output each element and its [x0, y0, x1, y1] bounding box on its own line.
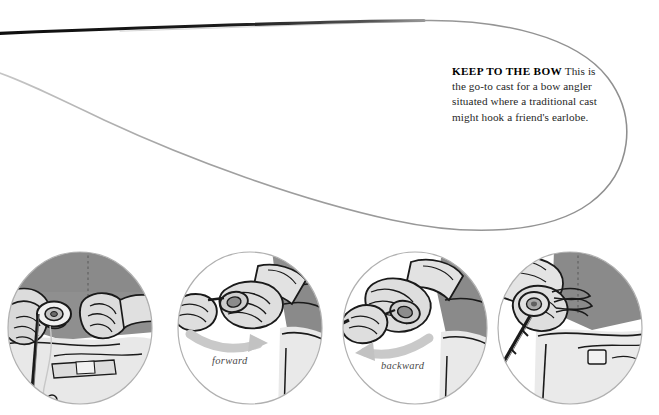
rod-tip-line: [0, 21, 424, 34]
panel-label-backward: backward: [381, 360, 424, 371]
instruction-panel-strip: forward: [0, 248, 659, 415]
caption-lead: KEEP TO THE BOW: [452, 65, 562, 77]
page-root: KEEP TO THE BOW This is the go-to cast f…: [0, 0, 659, 415]
fly-line-loop: [0, 20, 627, 230]
panel-release: [492, 248, 656, 415]
caption-block: KEEP TO THE BOW This is the go-to cast f…: [452, 64, 604, 125]
panel-backward-stroke: backward: [337, 248, 501, 415]
panel-label-forward: forward: [212, 355, 248, 366]
panel-forward-stroke: forward: [172, 248, 336, 415]
panel-grip-setup: [2, 248, 166, 415]
